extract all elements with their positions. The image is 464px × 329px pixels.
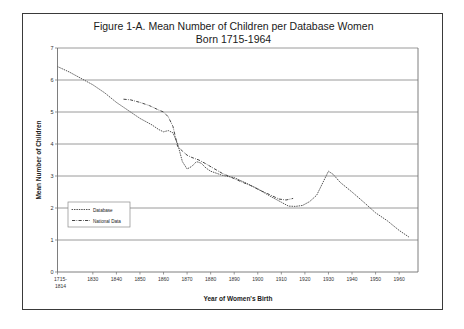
y-tick-labels: 01234567 xyxy=(50,45,53,275)
x-tick-label: 1910 xyxy=(276,276,287,282)
y-tick-label: 1 xyxy=(50,237,53,243)
series-line-national-data xyxy=(123,99,293,200)
x-tick-label: 1870 xyxy=(182,276,193,282)
line-chart: 01234567 1715-18141830184018501860187018… xyxy=(0,0,464,329)
x-tick-label: 1814 xyxy=(55,283,66,289)
y-tick-label: 4 xyxy=(50,141,53,147)
y-tick-label: 3 xyxy=(50,173,53,179)
x-tick-label: 1880 xyxy=(205,276,216,282)
x-tick-label: 1840 xyxy=(111,276,122,282)
axes xyxy=(55,48,418,275)
chart-canvas: 01234567 1715-18141830184018501860187018… xyxy=(0,0,464,329)
x-tick-label: 1850 xyxy=(134,276,145,282)
x-tick-label: 1930 xyxy=(323,276,334,282)
x-tick-label: 1715- xyxy=(54,276,67,282)
x-tick-label: 1940 xyxy=(346,276,357,282)
x-tick-label: 1960 xyxy=(394,276,405,282)
x-tick-label: 1860 xyxy=(158,276,169,282)
y-axis-title: Mean Number of Children xyxy=(35,120,42,199)
y-tick-label: 5 xyxy=(50,109,53,115)
y-tick-label: 2 xyxy=(50,205,53,211)
x-tick-label: 1950 xyxy=(370,276,381,282)
x-tick-label: 1920 xyxy=(299,276,310,282)
x-axis-title: Year of Women's Birth xyxy=(204,295,273,302)
x-tick-label: 1900 xyxy=(252,276,263,282)
legend-label-2: National Data xyxy=(93,219,121,224)
x-tick-labels: 1715-18141830184018501860187018801890190… xyxy=(54,276,405,289)
y-tick-label: 6 xyxy=(50,77,53,83)
y-tick-label: 7 xyxy=(50,45,53,51)
chart-legend: DatabaseNational Data xyxy=(68,202,130,227)
y-tick-label: 0 xyxy=(50,269,53,275)
x-tick-label: 1830 xyxy=(87,276,98,282)
legend-label-1: Database xyxy=(93,208,113,213)
x-tick-label: 1890 xyxy=(229,276,240,282)
